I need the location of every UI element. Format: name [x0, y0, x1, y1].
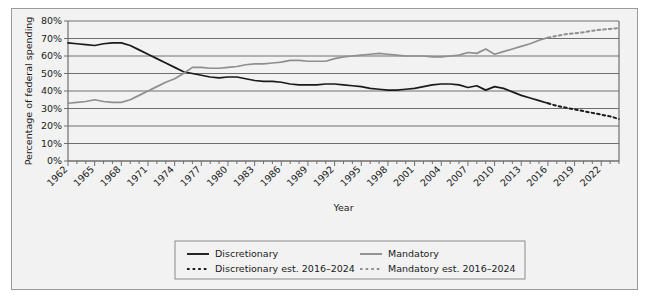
- chart-figure: 0%10%20%30%40%50%60%70%80%Percentage of …: [11, 8, 638, 290]
- legend-label: Mandatory est. 2016–2024: [388, 263, 516, 274]
- x-axis-tick-label: 1989: [284, 164, 309, 189]
- y-axis-tick-label: 10%: [41, 138, 62, 149]
- x-axis-tick-label: 1998: [364, 164, 389, 189]
- x-axis-tick-label: 1992: [311, 164, 336, 189]
- federal-spending-line-chart: 0%10%20%30%40%50%60%70%80%Percentage of …: [12, 9, 639, 291]
- x-axis-tick-label: 1986: [258, 164, 283, 189]
- x-axis-tick-label: 1995: [338, 164, 363, 189]
- y-axis-title: Percentage of federal spending: [23, 17, 34, 166]
- x-axis-tick-label: 2019: [551, 164, 576, 189]
- x-axis-title: Year: [332, 202, 353, 213]
- x-axis-tick-label: 1974: [151, 164, 176, 189]
- legend-label: Discretionary est. 2016–2024: [215, 263, 355, 274]
- y-axis-tick-label: 80%: [41, 15, 62, 26]
- legend-label: Discretionary: [215, 248, 279, 259]
- x-axis-tick-label: 2001: [391, 164, 416, 189]
- x-axis-tick-label: 2010: [471, 164, 496, 189]
- x-axis-tick-label: 1971: [125, 164, 150, 189]
- x-axis-tick-label: 1983: [231, 164, 256, 189]
- x-axis-tick-label: 2004: [418, 164, 443, 189]
- y-axis-tick-label: 30%: [41, 103, 62, 114]
- x-axis-tick-label: 2007: [444, 164, 469, 189]
- x-axis-tick-label: 2022: [578, 164, 603, 189]
- x-axis-tick-label: 2016: [524, 164, 549, 189]
- x-axis-tick-label: 1980: [205, 164, 230, 189]
- x-axis-tick-label: 1968: [98, 164, 123, 189]
- x-axis-tick-label: 1962: [45, 164, 70, 189]
- y-axis-tick-label: 20%: [41, 120, 62, 131]
- y-axis-tick-label: 70%: [41, 33, 62, 44]
- y-axis-tick-label: 60%: [41, 50, 62, 61]
- x-axis-tick-label: 2013: [498, 164, 523, 189]
- chart-legend: DiscretionaryMandatoryDiscretionary est.…: [175, 241, 525, 279]
- y-axis-tick-label: 40%: [41, 85, 62, 96]
- chart-plot-wrapper: 0%10%20%30%40%50%60%70%80%Percentage of …: [12, 9, 639, 291]
- y-axis-tick-label: 50%: [41, 68, 62, 79]
- x-axis-tick-label: 1965: [71, 164, 96, 189]
- x-axis-tick-label: 1977: [178, 164, 203, 189]
- legend-label: Mandatory: [388, 248, 439, 259]
